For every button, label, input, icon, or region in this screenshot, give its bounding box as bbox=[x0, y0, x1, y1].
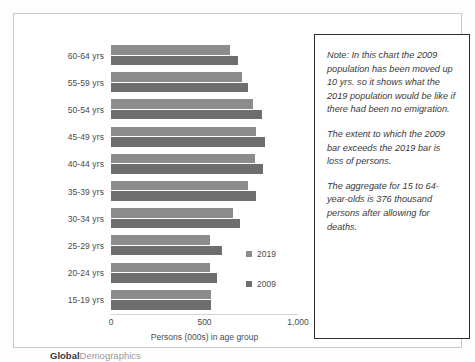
legend-item[interactable]: 2009 bbox=[246, 277, 316, 290]
outer-frame: 60-64 yrs55-59 yrs50-54 yrs45-49 yrs40-4… bbox=[13, 13, 462, 348]
logo-light-text: Demographics bbox=[80, 350, 141, 361]
global-demographics-logo: GlobalDemographics bbox=[50, 350, 141, 361]
bar-2019 bbox=[111, 127, 256, 137]
note-paragraph: The aggregate for 15 to 64-year-olds is … bbox=[327, 180, 457, 234]
note-paragraph: Note: In this chart the 2009 population … bbox=[327, 49, 457, 117]
bar-2009 bbox=[111, 246, 222, 256]
bar-2009 bbox=[111, 300, 211, 310]
bar-group bbox=[111, 71, 311, 94]
legend-item[interactable]: 2019 bbox=[246, 247, 316, 260]
chart-row: 45-49 yrs bbox=[32, 124, 312, 151]
chart-screenshot: 60-64 yrs55-59 yrs50-54 yrs45-49 yrs40-4… bbox=[0, 0, 475, 362]
bar-2019 bbox=[111, 154, 255, 164]
bar-2019 bbox=[111, 263, 210, 273]
category-label: 60-64 yrs bbox=[32, 51, 104, 61]
category-label: 40-44 yrs bbox=[32, 159, 104, 169]
x-tick-label: 1,000 bbox=[287, 317, 308, 327]
bar-2019 bbox=[111, 208, 233, 218]
logo-bold-text: Global bbox=[50, 350, 80, 361]
category-label: 55-59 yrs bbox=[32, 78, 104, 88]
chart-row: 55-59 yrs bbox=[32, 69, 312, 96]
bar-2009 bbox=[111, 164, 263, 174]
category-label: 20-24 yrs bbox=[32, 268, 104, 278]
bar-chart: 60-64 yrs55-59 yrs50-54 yrs45-49 yrs40-4… bbox=[32, 32, 312, 352]
chart-row: 60-64 yrs bbox=[32, 42, 312, 69]
bar-2019 bbox=[111, 181, 248, 191]
category-label: 15-19 yrs bbox=[32, 295, 104, 305]
legend-label: 2019 bbox=[257, 249, 276, 259]
category-label: 25-29 yrs bbox=[32, 241, 104, 251]
bar-2009 bbox=[111, 110, 262, 120]
bar-2009 bbox=[111, 191, 256, 201]
x-tick-label: 500 bbox=[197, 317, 211, 327]
category-label: 35-39 yrs bbox=[32, 187, 104, 197]
bar-group bbox=[111, 180, 311, 203]
bar-2009 bbox=[111, 273, 217, 283]
category-label: 45-49 yrs bbox=[32, 132, 104, 142]
category-label: 30-34 yrs bbox=[32, 214, 104, 224]
bar-group bbox=[111, 207, 311, 230]
bar-2009 bbox=[111, 83, 248, 93]
bar-2019 bbox=[111, 45, 230, 55]
bar-group bbox=[111, 126, 311, 149]
chart-row: 30-34 yrs bbox=[32, 205, 312, 232]
x-tick-label: 0 bbox=[109, 317, 114, 327]
x-axis-line bbox=[111, 314, 298, 315]
x-axis-title: Persons (000s) in age group bbox=[111, 332, 298, 342]
bar-group bbox=[111, 153, 311, 176]
bar-2019 bbox=[111, 99, 253, 109]
note-box: Note: In this chart the 2009 population … bbox=[314, 34, 470, 339]
bar-2009 bbox=[111, 219, 240, 229]
chart-row: 50-54 yrs bbox=[32, 96, 312, 123]
chart-legend: 20192009 bbox=[246, 247, 316, 307]
bar-2019 bbox=[111, 235, 210, 245]
category-label: 50-54 yrs bbox=[32, 105, 104, 115]
bar-2019 bbox=[111, 72, 242, 82]
chart-row: 40-44 yrs bbox=[32, 151, 312, 178]
bar-2009 bbox=[111, 137, 265, 147]
legend-swatch-icon bbox=[246, 281, 252, 287]
chart-row: 35-39 yrs bbox=[32, 178, 312, 205]
bar-2009 bbox=[111, 56, 238, 66]
bar-2019 bbox=[111, 290, 211, 300]
legend-label: 2009 bbox=[257, 279, 276, 289]
bar-group bbox=[111, 98, 311, 121]
note-paragraph: The extent to which the 2009 bar exceeds… bbox=[327, 128, 457, 169]
bar-group bbox=[111, 44, 311, 67]
legend-swatch-icon bbox=[246, 251, 252, 257]
